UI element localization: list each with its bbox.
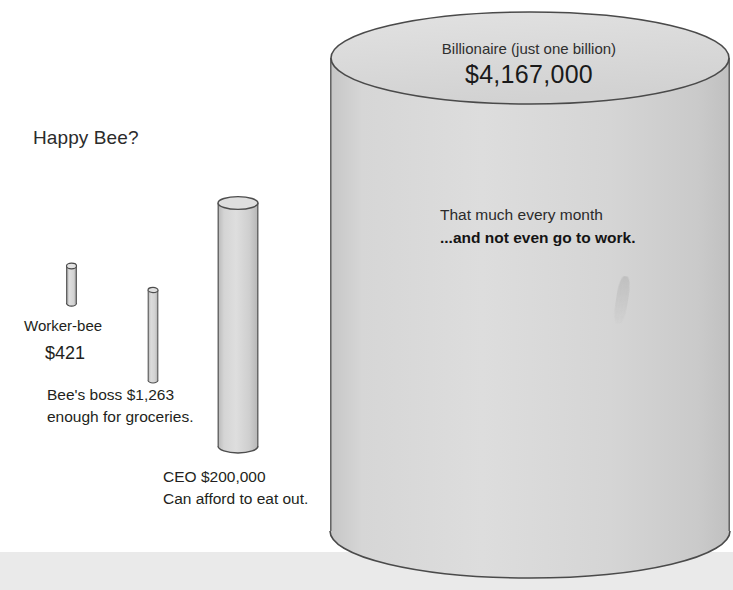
cylinder-billionaire — [330, 11, 730, 583]
cylinder-worker-bee — [65, 262, 78, 310]
label-worker-bee: Worker-bee — [24, 317, 102, 336]
label-billionaire-caption: Billionaire (just one billion) — [330, 40, 728, 59]
label-worker-bee-amount: $421 — [45, 342, 85, 365]
label-billionaire-note-line1: That much every month — [440, 205, 603, 224]
label-boss-line2: enough for groceries. — [47, 407, 193, 426]
label-ceo-line2: Can afford to eat out. — [163, 489, 308, 508]
label-ceo-line1: CEO $200,000 — [163, 467, 266, 486]
cylinder-ceo — [217, 196, 259, 458]
label-boss-line1: Bee's boss $1,263 — [47, 385, 174, 404]
label-billionaire-amount: $4,167,000 — [330, 59, 728, 90]
page-title: Happy Bee? — [33, 126, 139, 150]
cylinder-boss — [147, 287, 159, 385]
infographic-canvas: Happy Bee? Worker-bee $421 Bee's boss $1… — [0, 0, 733, 590]
label-billionaire-note-line2: ...and not even go to work. — [440, 228, 635, 247]
